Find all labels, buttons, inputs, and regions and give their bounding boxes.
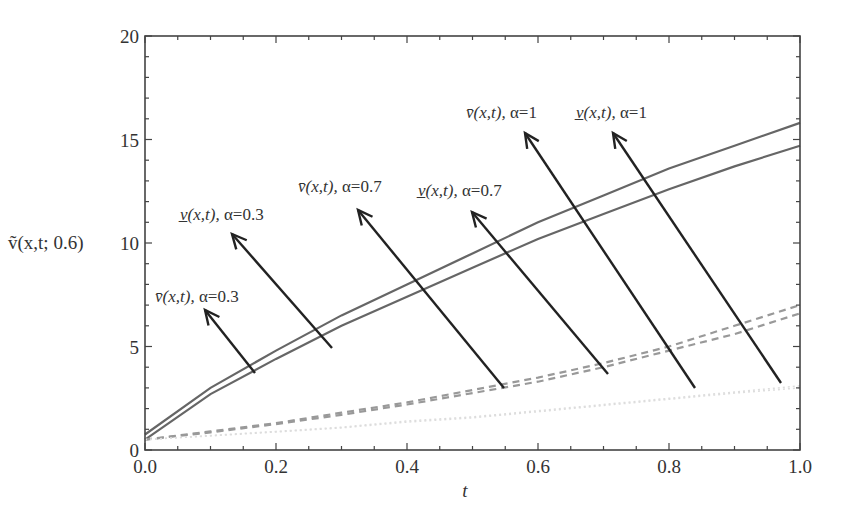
y-tick-label: 20	[120, 26, 139, 47]
x-tick-labels: 0.00.20.40.60.81.0	[133, 456, 812, 477]
arrow-line	[525, 133, 695, 388]
annotation-label: v̄(x,t), α=0.3	[155, 287, 239, 306]
annotation-label: v̄(x,t), α=1	[466, 103, 537, 122]
x-tick-label: 0.8	[657, 456, 681, 477]
y-tick-label: 10	[120, 233, 139, 254]
series-line	[145, 123, 800, 435]
arrowhead-icon	[525, 133, 539, 149]
series-line	[145, 305, 800, 440]
annotation-label: v̲(x,t), α=0.3	[178, 205, 263, 224]
arrowhead-icon	[613, 133, 627, 149]
arrow-line	[205, 310, 255, 373]
plot-frame	[145, 36, 800, 450]
annotation-label: v̲(x,t), α=0.7	[416, 181, 502, 200]
arrow-line	[232, 234, 332, 348]
y-tick-label: 0	[130, 440, 140, 461]
y-tick-label: 5	[130, 337, 140, 358]
curves	[145, 123, 800, 440]
y-tick-labels: 05101520	[120, 26, 139, 461]
x-axis-label: t	[462, 480, 468, 501]
chart: 0.00.20.40.60.81.0 05101520 t ṽ(x,t; 0.6…	[0, 0, 844, 521]
arrow-line	[472, 212, 608, 374]
annotation-label: v̄(x,t), α=0.7	[298, 177, 382, 196]
x-tick-label: 1.0	[788, 456, 812, 477]
x-tick-label: 0.4	[395, 456, 419, 477]
x-tick-label: 0.2	[264, 456, 288, 477]
arrow-line	[613, 133, 781, 383]
arrow-line	[358, 210, 504, 388]
y-tick-label: 15	[120, 130, 139, 151]
annotations: v̄(x,t), α=0.3v̲(x,t), α=0.3v̄(x,t), α=0…	[155, 103, 781, 388]
y-axis-label: ṽ(x,t; 0.6)	[8, 232, 83, 254]
series-line	[145, 388, 800, 440]
x-tick-label: 0.6	[526, 456, 550, 477]
annotation-label: v̲(x,t), α=1	[574, 103, 647, 122]
axis-ticks	[145, 36, 800, 450]
